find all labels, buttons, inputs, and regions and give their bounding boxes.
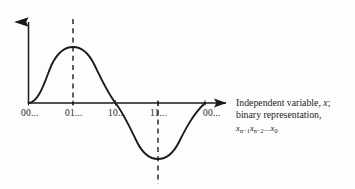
notation-ellipsis: ... xyxy=(264,123,271,133)
binary-representation-notation: xn−1xn−2...x0 xyxy=(236,122,354,137)
notation-sub-1: n−1 xyxy=(240,127,250,134)
tick-label-00-right: 00... xyxy=(203,108,221,118)
tick-label-11: 11... xyxy=(150,108,167,118)
tick-label-00-left: 00... xyxy=(21,108,39,118)
figure-container: 00... 01... 10... 11... 00... Independen… xyxy=(0,0,355,189)
notation-sub-3: 0 xyxy=(274,127,277,134)
caption-line-1-prefix: Independent variable, xyxy=(236,97,323,108)
caption-line-2: binary representation, xyxy=(236,109,354,121)
notation-sub-2: n−2 xyxy=(254,127,264,134)
caption-line-1: Independent variable, x; xyxy=(236,97,354,109)
tick-label-01: 01... xyxy=(65,108,83,118)
axis-caption: Independent variable, x; binary represen… xyxy=(236,97,354,137)
caption-line-1-suffix: ; xyxy=(328,97,331,108)
tick-label-10: 10... xyxy=(108,108,126,118)
plot-canvas xyxy=(0,0,355,189)
